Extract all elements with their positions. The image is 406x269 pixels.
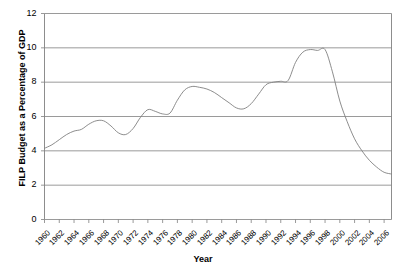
plot-area [0,0,406,269]
data-line-series [45,48,392,174]
chart-container: FILP Budget as a Percentage of GDP Year … [0,0,406,269]
gridlines [45,14,392,220]
x-axis-tick-marks [45,220,385,224]
y-axis-tick-marks [41,14,45,220]
